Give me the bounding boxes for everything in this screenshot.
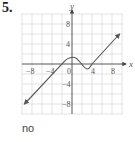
x-tick-label: −8 [26,67,35,76]
y-axis-label: y [69,1,74,11]
x-tick-label: 0 [67,67,71,76]
answer-text: no [22,122,34,134]
y-tick-label: −8 [62,100,71,109]
x-axis-label: x [128,59,133,69]
y-tick-label: 4 [66,40,70,49]
y-tick-label: 8 [66,20,70,29]
y-tick-label: −4 [62,80,71,89]
x-tick-label: −4 [46,67,55,76]
x-tick-label: 4 [91,67,95,76]
function-graph: x y −8 −4 0 4 8 8 4 −4 −8 [0,0,135,141]
x-tick-label: 8 [111,67,115,76]
